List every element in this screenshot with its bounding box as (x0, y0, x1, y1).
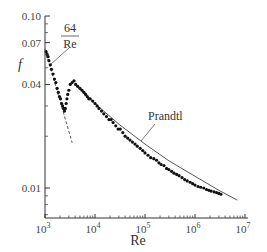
data-point (56, 87, 59, 90)
data-point (136, 145, 139, 148)
plot-area (44, 49, 237, 200)
data-point (95, 104, 98, 107)
laminar-label-numerator: 64 (64, 21, 76, 35)
data-point (160, 163, 163, 166)
data-point (139, 147, 142, 150)
data-point (167, 168, 170, 171)
x-tick-label: 107 (236, 221, 251, 235)
data-point (93, 102, 96, 105)
friction-factor-chart: 103104105106107 0.100.070.040.01 Re f 64… (0, 0, 267, 252)
data-point (64, 107, 67, 110)
data-point (65, 102, 68, 105)
data-point (162, 164, 165, 167)
data-point (186, 179, 189, 182)
data-point (149, 156, 152, 159)
prandtl-label: Prandtl (148, 109, 183, 123)
data-point (146, 154, 149, 157)
data-point (110, 118, 113, 121)
data-point (210, 189, 213, 192)
data-point (91, 100, 94, 103)
y-ticks: 0.100.070.040.01 (22, 10, 50, 215)
x-tick-label: 103 (36, 221, 51, 235)
prandtl-leader-line (141, 124, 155, 141)
data-point (119, 128, 122, 131)
laminar-label-denominator: Re (63, 37, 76, 51)
x-tick-label: 104 (86, 221, 101, 235)
data-point (50, 68, 53, 71)
data-point (67, 89, 70, 92)
laminar-leader-line (51, 48, 69, 64)
data-point (219, 193, 222, 196)
data-point (143, 151, 146, 154)
y-tick-label: 0.10 (22, 10, 42, 22)
y-axis-title: f (18, 57, 24, 72)
data-point (124, 135, 127, 138)
y-tick-label: 0.07 (22, 37, 42, 49)
data-point (65, 97, 68, 100)
data-point (121, 131, 124, 134)
data-point (105, 115, 108, 118)
data-point (111, 121, 114, 124)
data-point (155, 159, 158, 162)
data-point (177, 174, 180, 177)
data-point (89, 97, 92, 100)
data-point (47, 59, 50, 62)
x-ticks: 103104105106107 (36, 214, 251, 235)
data-point (66, 93, 69, 96)
x-tick-label: 106 (186, 221, 201, 235)
data-point (97, 107, 100, 110)
x-axis-title: Re (130, 233, 146, 248)
data-point (131, 140, 134, 143)
data-point (57, 91, 60, 94)
data-point (199, 186, 202, 189)
data-point (141, 149, 144, 152)
data-point (53, 77, 56, 80)
data-point (51, 72, 54, 75)
data-point (100, 109, 103, 112)
data-point (152, 157, 155, 160)
data-point (46, 55, 49, 58)
data-point (193, 183, 196, 186)
prandtl-curve (75, 84, 237, 200)
data-point (114, 124, 117, 127)
data-point (102, 112, 105, 115)
y-tick-label: 0.04 (22, 78, 42, 90)
data-point (72, 79, 75, 82)
data-point (59, 97, 62, 100)
data-point (54, 81, 57, 84)
y-tick-label: 0.01 (22, 182, 41, 194)
data-point (202, 186, 205, 189)
data-point (180, 176, 183, 179)
